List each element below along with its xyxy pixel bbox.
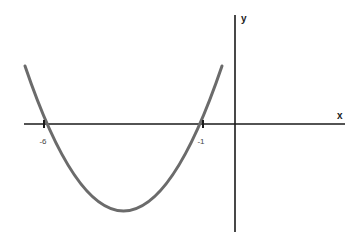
- tick-label-neg6: -6: [39, 137, 47, 146]
- tick-label-neg1: -1: [197, 137, 205, 146]
- x-axis-label: x: [337, 110, 343, 121]
- parabola-graph: -6 -1 y x: [0, 0, 360, 245]
- y-axis-label: y: [241, 13, 247, 24]
- parabola-curve: [25, 66, 222, 211]
